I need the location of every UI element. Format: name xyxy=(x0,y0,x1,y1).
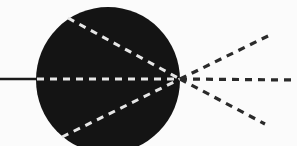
dark-sphere xyxy=(36,7,180,146)
ray-diagram-canvas xyxy=(0,0,297,146)
outgoing-ray-lower xyxy=(180,79,265,124)
outgoing-ray-upper xyxy=(180,35,270,79)
outgoing-ray-center xyxy=(180,79,297,80)
outgoing-rays-group xyxy=(180,35,297,124)
ray-diagram xyxy=(0,0,297,146)
